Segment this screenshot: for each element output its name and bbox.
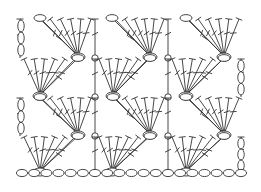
double-crochet-tick xyxy=(125,72,132,73)
double-crochet-tick xyxy=(175,147,179,152)
double-crochet-tick xyxy=(102,70,107,75)
side-chain-oval xyxy=(18,99,24,111)
double-crochet-top-bar xyxy=(122,96,128,100)
bottom-chain-oval xyxy=(162,169,173,176)
double-crochet-stem xyxy=(112,137,138,171)
double-crochet-tick xyxy=(83,33,90,34)
double-crochet-top-bar xyxy=(122,17,128,21)
side-chain-oval xyxy=(18,111,24,123)
double-crochet-top-bar xyxy=(225,19,232,20)
chain-stitch-oval xyxy=(72,55,84,62)
bottom-chain-oval xyxy=(65,169,76,176)
double-crochet-top-bar xyxy=(195,96,201,100)
side-chain-oval xyxy=(238,138,244,149)
bottom-chain-oval xyxy=(211,169,222,176)
double-crochet-tick xyxy=(199,72,206,73)
double-crochet-top-bar xyxy=(31,58,38,59)
double-crochet-tick xyxy=(155,111,162,112)
bottom-chain-oval xyxy=(126,169,137,176)
double-crochet-tick xyxy=(28,147,32,152)
side-chain-oval xyxy=(18,20,24,32)
double-crochet-top-bar xyxy=(210,135,215,139)
double-crochet-tick xyxy=(52,72,59,73)
double-crochet-stem xyxy=(60,98,78,134)
bottom-chain-oval xyxy=(102,169,113,176)
double-crochet-stem xyxy=(50,19,78,56)
double-crochet-tick xyxy=(52,149,59,150)
bottom-chain-oval xyxy=(199,169,210,176)
side-chain-oval xyxy=(238,149,244,160)
double-crochet-stem xyxy=(24,137,40,171)
double-crochet-stem xyxy=(34,59,40,95)
bottom-chain-oval xyxy=(16,169,27,176)
double-crochet-stem xyxy=(186,59,203,95)
double-crochet-top-bar xyxy=(57,96,63,99)
double-crochet-top-bar xyxy=(41,59,48,60)
double-crochet-top-bar xyxy=(225,98,232,99)
double-crochet-tick xyxy=(212,31,216,36)
bottom-chain-oval xyxy=(53,169,64,176)
double-crochet-tick xyxy=(138,109,142,114)
double-crochet-tick xyxy=(138,31,142,36)
double-crochet-stem xyxy=(186,137,203,171)
double-crochet-top-bar xyxy=(77,19,84,20)
double-crochet-stem xyxy=(186,59,213,95)
fan-diagonal-chain xyxy=(40,97,78,134)
double-crochet-tick xyxy=(65,109,69,114)
bottom-chain-oval xyxy=(175,169,186,176)
double-crochet-top-bar xyxy=(125,135,131,138)
crochet-stitch-chart xyxy=(0,0,261,192)
double-crochet-stem xyxy=(112,137,128,171)
double-crochet-top-bar xyxy=(62,135,68,139)
fan-diagonal-chain xyxy=(113,97,150,134)
double-crochet-top-bar xyxy=(215,18,222,19)
double-crochet-top-bar xyxy=(105,59,112,60)
fan-diagonal-chain xyxy=(112,18,150,56)
bottom-chain-oval xyxy=(29,169,40,176)
bottom-chain-oval xyxy=(187,169,198,176)
chain-stitch-oval xyxy=(72,133,84,140)
chain-stitch-oval xyxy=(180,15,192,22)
double-crochet-top-bar xyxy=(179,59,186,60)
double-crochet-top-bar xyxy=(105,137,112,138)
bottom-chain-oval xyxy=(138,169,149,176)
double-crochet-top-bar xyxy=(135,57,141,61)
double-crochet-top-bar xyxy=(47,96,53,100)
chain-stitch-oval xyxy=(218,55,230,62)
chain-stitch-oval xyxy=(218,133,230,140)
double-crochet-tick xyxy=(230,33,237,34)
bottom-chain-oval xyxy=(114,169,125,176)
double-crochet-top-bar xyxy=(77,98,84,99)
double-crochet-tick xyxy=(65,30,69,35)
chain-stitch-oval xyxy=(144,133,156,140)
double-crochet-top-bar xyxy=(31,136,38,137)
double-crochet-top-bar xyxy=(47,17,53,21)
bottom-chain-oval xyxy=(150,169,161,176)
double-crochet-tick xyxy=(155,33,162,34)
fan-diagonal-chain xyxy=(40,136,78,171)
chain-stitch-oval xyxy=(34,94,46,101)
side-chain-oval xyxy=(18,122,24,134)
fan-diagonal-chain xyxy=(113,58,150,95)
chain-stitch-oval xyxy=(34,15,46,22)
chain-stitch-oval xyxy=(180,94,192,101)
double-crochet-tick xyxy=(102,147,107,152)
double-crochet-top-bar xyxy=(210,57,216,61)
double-crochet-tick xyxy=(212,109,216,114)
double-crochet-top-bar xyxy=(151,19,158,20)
fan-diagonal-chain xyxy=(40,18,78,56)
double-crochet-top-bar xyxy=(189,58,196,59)
double-crochet-stem xyxy=(113,59,138,95)
bottom-chain-oval xyxy=(235,169,246,176)
double-crochet-top-bar xyxy=(195,17,201,21)
double-crochet-stem xyxy=(24,59,40,95)
double-crochet-top-bar xyxy=(57,17,63,20)
chain-stitch-oval xyxy=(144,55,156,62)
double-crochet-tick xyxy=(59,109,62,115)
double-crochet-tick xyxy=(125,149,132,150)
fan-diagonal-chain xyxy=(186,18,224,56)
double-crochet-stem xyxy=(125,98,150,134)
double-crochet-stem xyxy=(50,98,78,134)
bottom-chain-oval xyxy=(89,169,100,176)
double-crochet-tick xyxy=(46,72,53,73)
